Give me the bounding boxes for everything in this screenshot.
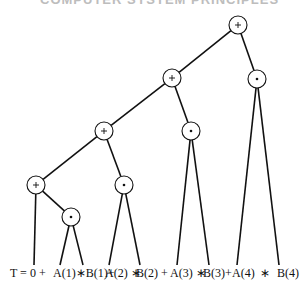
expression-token: B(4) — [277, 266, 299, 281]
tree-edge — [258, 88, 279, 265]
expression-token: T = 0 + — [10, 266, 46, 281]
tree-edge — [237, 88, 256, 265]
tree-edge — [73, 226, 83, 265]
plus-node — [229, 16, 247, 34]
tree-edge — [241, 33, 254, 70]
tree-edge — [111, 84, 165, 126]
expression-token: B(3)+ — [203, 266, 232, 281]
plus-node — [95, 122, 113, 140]
multiply-node — [182, 122, 200, 140]
multiply-dot-icon — [123, 184, 126, 187]
tree-edge — [179, 31, 231, 73]
expression-token: B(2) + — [136, 266, 168, 281]
tree-edge — [43, 137, 97, 180]
tree-edge — [192, 140, 209, 265]
multiply-node — [62, 208, 80, 226]
tree-edge — [175, 86, 188, 122]
tree-edge — [43, 191, 65, 211]
multiply-dot-icon — [190, 130, 193, 133]
tree-edges — [34, 31, 279, 265]
tree-edge — [177, 140, 190, 265]
multiply-node — [115, 176, 133, 194]
multiply-dot-icon — [70, 216, 73, 219]
tree-nodes — [27, 16, 266, 226]
expression-token: A(3) ∗ — [170, 266, 206, 281]
expression-token: ∗ — [260, 266, 270, 281]
multiply-node — [248, 70, 266, 88]
tree-edge — [60, 226, 69, 265]
tree-edge — [109, 194, 122, 265]
plus-node — [27, 176, 45, 194]
plus-node — [163, 69, 181, 87]
expression-token: A(4) — [232, 266, 255, 281]
tree-edge — [34, 194, 36, 265]
tree-edge — [107, 139, 121, 176]
tree-edge — [126, 194, 140, 265]
expression-tree-diagram — [0, 0, 307, 290]
multiply-dot-icon — [256, 78, 259, 81]
